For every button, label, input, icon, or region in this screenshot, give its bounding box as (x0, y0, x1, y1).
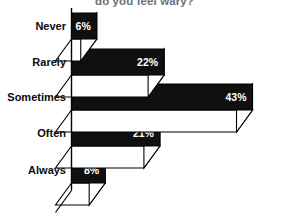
bar-chart-graphic: 8%21%43%22%6% NeverRarelySometimesOftenA… (0, 0, 289, 218)
bar-depth-face-sometimes (56, 110, 253, 132)
category-label-sometimes: Sometimes (7, 91, 66, 103)
bars-group: 8%21%43%22%6% (56, 13, 253, 205)
category-label-often: Often (37, 127, 66, 139)
category-label-never: Never (35, 20, 66, 32)
category-axis (56, 8, 72, 213)
bar-value-label-sometimes: 43% (226, 91, 248, 103)
chart-container: do you feel wary? 8%21%43%22%6% NeverRar… (0, 0, 289, 218)
category-label-rarely: Rarely (32, 56, 67, 68)
category-labels-group: NeverRarelySometimesOftenAlways (7, 20, 67, 176)
bar-value-label-never: 6% (76, 20, 92, 32)
category-label-always: Always (28, 164, 66, 176)
bar-value-label-rarely: 22% (137, 56, 159, 68)
